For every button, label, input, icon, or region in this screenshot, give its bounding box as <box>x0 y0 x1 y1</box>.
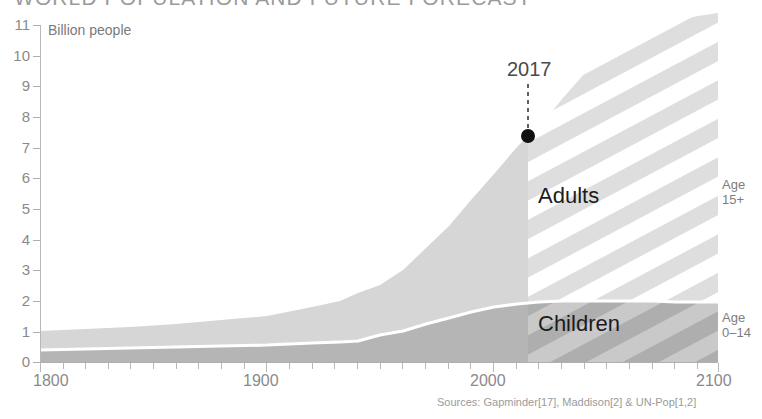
y-tick-4 <box>33 240 40 241</box>
y-tick-6 <box>33 178 40 179</box>
adults-age-line-1: Age <box>722 177 745 192</box>
x-tick-1910 <box>289 363 290 369</box>
y-tick-label-5: 5 <box>0 201 30 216</box>
x-tick-1800 <box>40 363 41 372</box>
y-tick-8 <box>33 117 40 118</box>
x-tick-2050 <box>606 363 607 369</box>
children-age-label: Age 0–14 <box>722 311 751 341</box>
x-tick-1890 <box>244 363 245 369</box>
y-tick-label-3: 3 <box>0 262 30 277</box>
y-tick-label-8: 8 <box>0 109 30 124</box>
x-tick-1940 <box>357 363 358 369</box>
x-tick-2060 <box>629 363 630 369</box>
y-tick-label-0: 0 <box>0 354 30 369</box>
population-area-chart <box>0 0 762 419</box>
x-tick-1820 <box>85 363 86 369</box>
adults-age-line-2: 15+ <box>722 192 744 207</box>
adults-series-label: Adults <box>538 183 599 209</box>
chart-root: WORLD POPULATION AND FUTURE FORECAST <box>0 0 762 419</box>
x-tick-1990 <box>470 363 471 369</box>
x-tick-1920 <box>312 363 313 369</box>
children-age-line-2: 0–14 <box>722 325 751 340</box>
y-tick-label-4: 4 <box>0 232 30 247</box>
x-tick-label-1900: 1900 <box>243 372 279 390</box>
y-tick-0 <box>33 362 40 363</box>
y-tick-9 <box>33 86 40 87</box>
x-tick-2030 <box>561 363 562 369</box>
x-tick-1960 <box>402 363 403 369</box>
x-tick-label-2000: 2000 <box>470 372 506 390</box>
y-tick-label-2: 2 <box>0 293 30 308</box>
history-bands <box>40 136 528 362</box>
x-tick-1810 <box>63 363 64 369</box>
x-tick-2000 <box>493 363 494 372</box>
x-tick-2020 <box>538 363 539 369</box>
y-tick-label-11: 11 <box>0 17 30 32</box>
x-tick-1930 <box>334 363 335 369</box>
x-tick-label-1800: 1800 <box>33 372 69 390</box>
marker-dot-2017[interactable] <box>521 129 535 143</box>
y-tick-1 <box>33 332 40 333</box>
adults-area-forecast <box>528 13 718 303</box>
sources-note: Sources: Gapminder[17], Maddison[2] & UN… <box>437 396 696 408</box>
x-tick-1850 <box>153 363 154 369</box>
x-tick-2040 <box>584 363 585 369</box>
y-axis-caption: Billion people <box>48 22 131 38</box>
y-tick-5 <box>33 209 40 210</box>
x-tick-1900 <box>266 363 267 372</box>
x-tick-1870 <box>198 363 199 369</box>
marker-year-label: 2017 <box>507 58 552 81</box>
y-tick-label-9: 9 <box>0 78 30 93</box>
y-tick-label-1: 1 <box>0 324 30 339</box>
y-tick-label-10: 10 <box>0 48 30 63</box>
x-tick-2010 <box>516 363 517 369</box>
children-age-line-1: Age <box>722 310 745 325</box>
x-tick-2070 <box>652 363 653 369</box>
y-tick-7 <box>33 148 40 149</box>
y-axis-line <box>40 25 41 363</box>
x-tick-2100 <box>718 363 719 372</box>
x-tick-1980 <box>448 363 449 369</box>
x-tick-1860 <box>176 363 177 369</box>
x-tick-2090 <box>697 363 698 369</box>
x-tick-1950 <box>380 363 381 369</box>
children-series-label: Children <box>538 311 620 337</box>
y-tick-3 <box>33 270 40 271</box>
y-tick-10 <box>33 56 40 57</box>
y-tick-label-7: 7 <box>0 140 30 155</box>
x-tick-1830 <box>108 363 109 369</box>
y-tick-2 <box>33 301 40 302</box>
y-tick-label-6: 6 <box>0 170 30 185</box>
x-tick-1970 <box>425 363 426 369</box>
x-tick-1840 <box>130 363 131 369</box>
x-tick-label-2100: 2100 <box>696 372 732 390</box>
x-axis-line <box>40 362 718 363</box>
x-tick-1880 <box>221 363 222 369</box>
x-tick-2080 <box>674 363 675 369</box>
y-tick-11 <box>33 25 40 26</box>
adults-age-label: Age 15+ <box>722 178 745 208</box>
